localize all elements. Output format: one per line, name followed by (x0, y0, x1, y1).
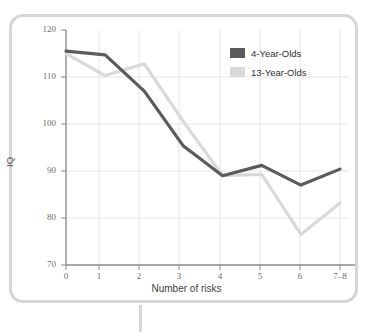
ytick-label-80: 80 (30, 212, 56, 222)
legend-label-4-year-olds: 4-Year-Olds (251, 48, 301, 59)
xtick-label-4: 4 (207, 271, 233, 281)
xtick-label-5: 5 (247, 271, 273, 281)
xtick-label-2: 2 (126, 271, 152, 281)
ytick-label-100: 100 (30, 118, 56, 128)
xtick-label-3: 3 (166, 271, 192, 281)
legend-swatch-13-year-olds (230, 67, 245, 77)
legend-item-4-year-olds: 4-Year-Olds (230, 45, 354, 61)
chart-panel: 120 110 100 90 80 70 0 1 2 3 4 5 6 7–8 I… (9, 14, 358, 303)
xtick-label-7-8: 7–8 (327, 271, 353, 281)
y-axis-ticks (61, 30, 66, 265)
xtick-label-1: 1 (86, 271, 112, 281)
legend-label-13-year-olds: 13-Year-Olds (251, 67, 307, 78)
panel-bottom-divider (139, 305, 142, 332)
ytick-label-70: 70 (30, 259, 56, 269)
xtick-label-0: 0 (53, 271, 79, 281)
legend-item-13-year-olds: 13-Year-Olds (230, 64, 354, 80)
ytick-label-90: 90 (30, 165, 56, 175)
x-axis-ticks (66, 265, 340, 270)
line-chart: 120 110 100 90 80 70 0 1 2 3 4 5 6 7–8 I… (12, 17, 361, 306)
legend-swatch-4-year-olds (230, 48, 245, 58)
chart-legend: 4-Year-Olds 13-Year-Olds (230, 45, 354, 83)
y-axis-title: IQ (4, 157, 15, 167)
xtick-label-6: 6 (287, 271, 313, 281)
ytick-label-110: 110 (30, 71, 56, 81)
x-axis-title: Number of risks (12, 283, 361, 294)
ytick-label-120: 120 (30, 24, 56, 34)
